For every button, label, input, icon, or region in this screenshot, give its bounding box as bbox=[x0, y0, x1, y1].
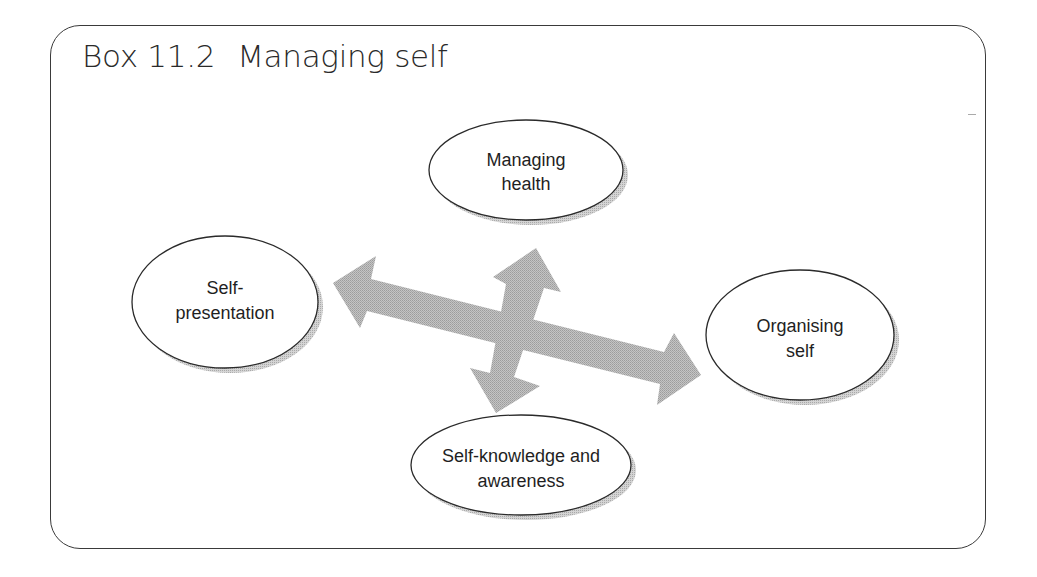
node-self-knowledge: Self-knowledge and awareness bbox=[411, 415, 636, 520]
node-organising-self: Organising self bbox=[706, 270, 899, 405]
node-ellipse bbox=[132, 236, 318, 368]
node-self-presentation: Self- presentation bbox=[132, 236, 323, 373]
node-label-line-1: Managing bbox=[486, 150, 565, 170]
scan-speck bbox=[968, 114, 976, 115]
node-label-line-2: presentation bbox=[175, 303, 274, 323]
node-label-line-2: awareness bbox=[477, 471, 564, 491]
node-ellipse bbox=[429, 120, 623, 220]
node-managing-health: Managing health bbox=[429, 120, 628, 225]
node-label-line-1: Self- bbox=[206, 278, 243, 298]
node-label-line-2: health bbox=[501, 174, 550, 194]
node-label-line-1: Organising bbox=[756, 316, 843, 336]
managing-self-diagram: Managing health Self- presentation Organ… bbox=[0, 0, 1037, 577]
node-label-line-2: self bbox=[786, 341, 815, 361]
node-label-line-1: Self-knowledge and bbox=[442, 446, 600, 466]
